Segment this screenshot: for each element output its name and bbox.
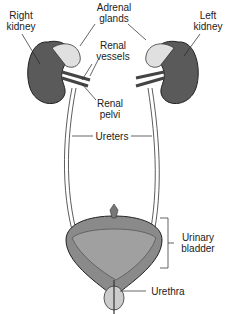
right-kidney-shape (28, 41, 81, 103)
label-line: Adrenal (91, 2, 137, 13)
label-right-kidney: Right kidney (4, 10, 38, 32)
label-line: kidney (190, 21, 226, 32)
label-left-kidney: Left kidney (190, 10, 226, 32)
label-adrenal-glands: Adrenal glands (91, 2, 137, 24)
urinary-bladder-shape (66, 204, 162, 314)
label-urethra: Urethra (148, 286, 188, 297)
label-line: vessels (93, 51, 133, 62)
renal-vessels-shape (62, 72, 164, 86)
label-urinary-bladder: Urinary bladder (176, 232, 220, 254)
label-line: glands (91, 13, 137, 24)
label-line: bladder (176, 243, 220, 254)
label-line: Renal (95, 98, 125, 109)
left-kidney-shape (146, 41, 199, 103)
label-line: Right (4, 10, 38, 21)
label-ureters: Ureters (94, 131, 130, 142)
label-line: pelvi (95, 109, 125, 120)
label-line: Urinary (176, 232, 220, 243)
label-line: kidney (4, 21, 38, 32)
label-renal-pelvi: Renal pelvi (95, 98, 125, 120)
label-line: Renal (93, 40, 133, 51)
label-renal-vessels: Renal vessels (93, 40, 133, 62)
label-line: Left (190, 10, 226, 21)
